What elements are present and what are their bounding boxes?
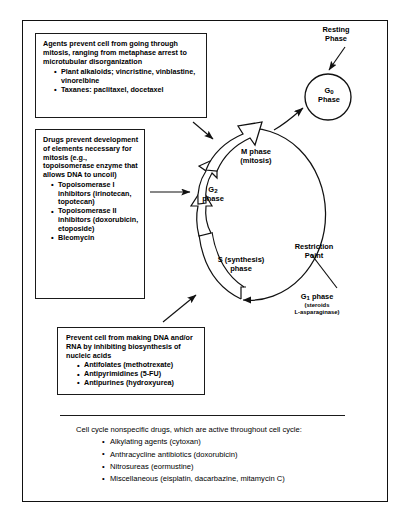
restriction-line2: Point — [288, 252, 340, 261]
callout-dna-lead: Prevent cell from making DNA and/or RNA … — [66, 334, 198, 360]
list-item: Alkylating agents (cytoxan) — [102, 436, 345, 448]
figure-canvas: Agents prevent cell from going through m… — [0, 0, 409, 522]
list-item: Nitrosureas (eormustine) — [102, 461, 345, 473]
g1-label-line1: G1 phase — [288, 293, 346, 302]
label-g0-phase: G0 Phase — [306, 87, 352, 105]
horizontal-divider — [60, 415, 345, 416]
label-g1-phase: G1 phase (steroids L-asparaginase) — [288, 293, 346, 316]
s-phase-line2: phase — [208, 265, 274, 274]
list-item: Plant alkaloids; vincristine, vinblastin… — [54, 67, 200, 85]
label-s-phase: S (synthesis) phase — [208, 256, 274, 274]
callout-mitosis-list: Plant alkaloids; vincristine, vinblastin… — [43, 67, 200, 94]
list-item: Topoisomerase I inhibitors (irinotecan, … — [51, 181, 139, 207]
m-phase-line2: (mitosis) — [228, 157, 284, 166]
list-item: Miscellaneous (eisplatin, dacarbazine, m… — [102, 473, 345, 485]
list-item: Anthracycline antibiotics (doxorubicin) — [102, 449, 345, 461]
callout-topoisomerase: Drugs prevent development of elements ne… — [35, 129, 145, 299]
nonspecific-lead: Cell cycle nonspecific drugs, which are … — [60, 425, 345, 434]
list-item: Topoisomerase II inhibitors (doxorubicin… — [51, 207, 139, 233]
callout-mitosis-agents: Agents prevent cell from going through m… — [35, 33, 207, 118]
list-item: Bleomycin — [51, 234, 139, 243]
label-m-phase: M phase (mitosis) — [228, 148, 284, 166]
g0-label-line2: Phase — [306, 96, 352, 105]
label-resting-phase: Resting Phase — [310, 26, 362, 43]
callout-mitosis-lead: Agents prevent cell from going through m… — [43, 40, 200, 66]
callout-dna-list: Antifolates (methotrexate) Antipyrimidin… — [66, 361, 198, 387]
resting-phase-line2: Phase — [310, 35, 362, 44]
g2-label-line2: phase — [196, 195, 230, 204]
cell-cycle-nonspecific-block: Cell cycle nonspecific drugs, which are … — [60, 415, 345, 486]
g1-label-line3: L-asparaginase) — [288, 309, 346, 316]
g0-subscript: 0 — [330, 89, 333, 95]
callout-topoisomerase-lead: Drugs prevent development of elements ne… — [43, 136, 139, 180]
list-item: Taxanes: paclitaxel, docetaxel — [54, 85, 200, 94]
list-item: Antipurines (hydroxyurea) — [77, 379, 198, 388]
nonspecific-list: Alkylating agents (cytoxan) Anthracyclin… — [60, 436, 345, 485]
g1-label-line2: (steroids — [288, 302, 346, 309]
callout-topoisomerase-list: Topoisomerase I inhibitors (irinotecan, … — [43, 181, 139, 242]
callout-dna-synthesis: Prevent cell from making DNA and/or RNA … — [57, 327, 205, 395]
g1-phase-word: phase — [310, 292, 333, 301]
label-g2-phase: G2 phase — [196, 186, 230, 204]
label-restriction-point: Restriction Point — [288, 243, 340, 260]
